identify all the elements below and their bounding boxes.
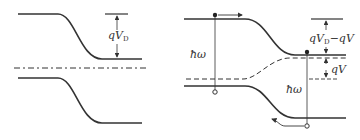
- photon-label-right: ħω: [286, 84, 302, 95]
- barrier-minus-bias-label: qVD−qV: [309, 33, 354, 46]
- bias-label: qV: [331, 64, 346, 75]
- hole-drift-arrow: [272, 119, 304, 126]
- left-valence-band: [18, 78, 142, 123]
- band-diagram-graphic: [0, 0, 360, 140]
- electron-dot-left: [213, 13, 217, 17]
- photon-label-left: ħω: [190, 49, 206, 60]
- hole-circle-left: [213, 90, 217, 94]
- right-quasi-fermi-level: [186, 58, 346, 79]
- hole-circle-right: [305, 124, 309, 128]
- electron-dot-right: [305, 50, 309, 54]
- right-valence-band: [184, 86, 346, 118]
- band-diagram-canvas: qVD ħω ħω qVD−qV qV: [0, 0, 360, 140]
- left-barrier-label: qVD: [108, 30, 129, 43]
